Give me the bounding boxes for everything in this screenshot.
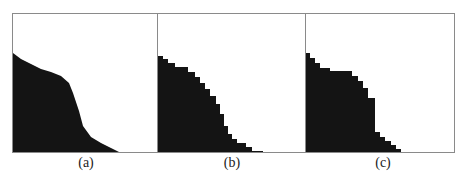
panel-c [305,13,455,153]
region-plot-a [13,14,158,153]
region-plot-b [158,14,306,153]
panel-a [12,13,158,153]
figure: (a) (b) (c) [0,0,466,181]
region-plot-c [306,14,455,153]
panel-label-c: (c) [363,155,403,171]
panel-b [157,13,306,153]
panel-label-b: (b) [212,155,252,171]
panel-label-a: (a) [66,155,106,171]
